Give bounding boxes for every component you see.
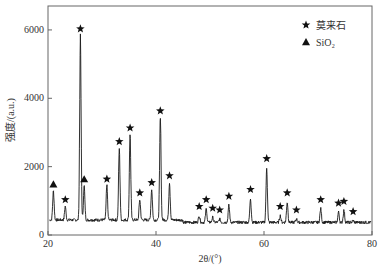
legend-label: SiO₂ <box>316 37 335 48</box>
xrd-chart: 0200040006000 20406080 2θ/(°) 强度/(a.u.) … <box>0 0 382 274</box>
star-marker-icon <box>165 171 174 179</box>
star-marker-icon <box>340 197 349 205</box>
star-marker-icon <box>147 178 156 186</box>
peak-markers <box>49 24 357 215</box>
star-marker-icon <box>115 137 124 145</box>
star-marker-icon <box>103 175 112 183</box>
star-marker-icon <box>225 192 234 200</box>
x-tick-label: 80 <box>367 238 377 249</box>
star-marker-icon <box>276 202 285 210</box>
triangle-legend-icon <box>302 38 310 45</box>
star-marker-icon <box>316 195 325 203</box>
star-legend-icon <box>302 21 311 29</box>
star-marker-icon <box>349 207 358 215</box>
xrd-trace <box>50 34 371 224</box>
star-marker-icon <box>208 204 217 212</box>
y-tick-label: 4000 <box>24 92 44 103</box>
legend: 莫来石SiO₂ <box>302 20 346 48</box>
y-axis-label: 强度/(a.u.) <box>4 98 17 142</box>
x-axis-label: 2θ/(°) <box>198 253 221 265</box>
star-marker-icon <box>202 195 211 203</box>
triangle-marker-icon <box>49 180 57 187</box>
star-marker-icon <box>76 24 85 32</box>
star-marker-icon <box>156 106 165 114</box>
x-axis: 20406080 <box>43 231 377 249</box>
x-tick-label: 20 <box>43 238 53 249</box>
star-marker-icon <box>246 185 255 193</box>
star-marker-icon <box>61 195 70 203</box>
star-marker-icon <box>215 205 224 213</box>
x-tick-label: 60 <box>259 238 269 249</box>
legend-label: 莫来石 <box>316 20 346 31</box>
star-marker-icon <box>262 154 271 162</box>
y-tick-label: 2000 <box>24 161 44 172</box>
x-tick-label: 40 <box>151 238 161 249</box>
y-tick-label: 6000 <box>24 24 44 35</box>
star-marker-icon <box>195 202 204 210</box>
star-marker-icon <box>292 205 301 213</box>
star-marker-icon <box>283 188 292 196</box>
star-marker-icon <box>126 123 135 131</box>
star-marker-icon <box>136 188 145 196</box>
star-marker-icon <box>334 199 343 207</box>
